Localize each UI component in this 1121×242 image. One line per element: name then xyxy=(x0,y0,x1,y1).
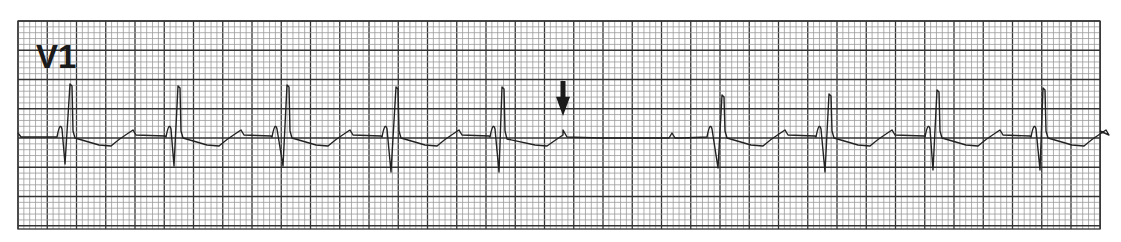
ecg-strip: V1 xyxy=(0,0,1121,242)
lead-label-v1: V1 xyxy=(36,38,76,75)
page-background xyxy=(0,0,1121,242)
